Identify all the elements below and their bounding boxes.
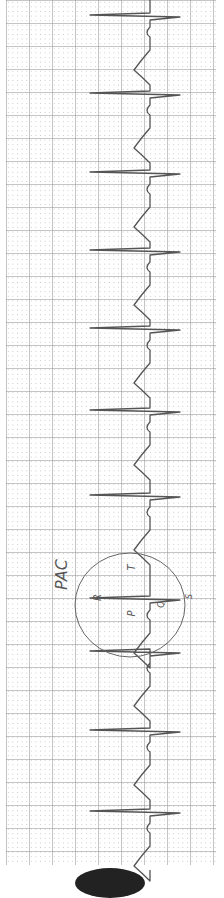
dark-blob: [75, 868, 145, 898]
q-letter: Q: [157, 601, 166, 607]
p-letter: P: [126, 610, 137, 616]
t-letter: T: [126, 564, 137, 570]
s-letter: S: [185, 594, 194, 599]
pac-label: PAC: [52, 559, 71, 590]
r-letter: R: [92, 594, 103, 601]
